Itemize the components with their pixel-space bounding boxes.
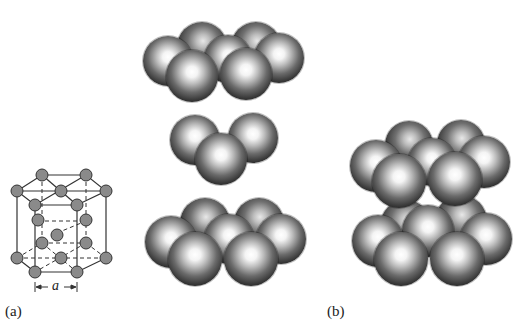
lattice-parameter-label: a (52, 278, 59, 294)
panel-b-label: (b) (327, 303, 345, 320)
panel-a-label: (a) (5, 303, 22, 320)
